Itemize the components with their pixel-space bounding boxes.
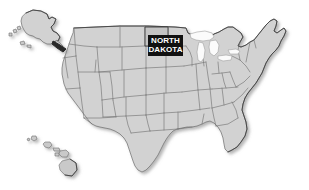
- state-name-label: NORTH DAKOTA: [148, 35, 183, 56]
- aleutian-island-1: [17, 26, 21, 30]
- usa-map-graphic: [0, 0, 309, 190]
- aleutian-island-4: [20, 41, 25, 45]
- aleutian-island-5: [27, 45, 31, 48]
- lake-erie: [218, 55, 232, 61]
- aleutian-island-3: [9, 33, 12, 36]
- hawaii-oahu: [43, 142, 52, 148]
- aleutian-island-2: [13, 29, 17, 33]
- usa-map-figure: NORTH DAKOTA: [0, 0, 309, 190]
- alaska-mainland: [21, 10, 60, 44]
- hawaii-kauai: [31, 136, 37, 141]
- hawaii-maui: [59, 150, 69, 157]
- hawaii-niihau: [27, 138, 30, 141]
- hawaii-molokai: [53, 148, 60, 151]
- alaska-inset: [9, 10, 66, 52]
- hawaii-inset: [27, 136, 77, 176]
- state-name-label-line-1: NORTH: [151, 37, 180, 45]
- state-name-label-line-2: DAKOTA: [148, 46, 182, 54]
- hawaii-lanai: [55, 153, 59, 156]
